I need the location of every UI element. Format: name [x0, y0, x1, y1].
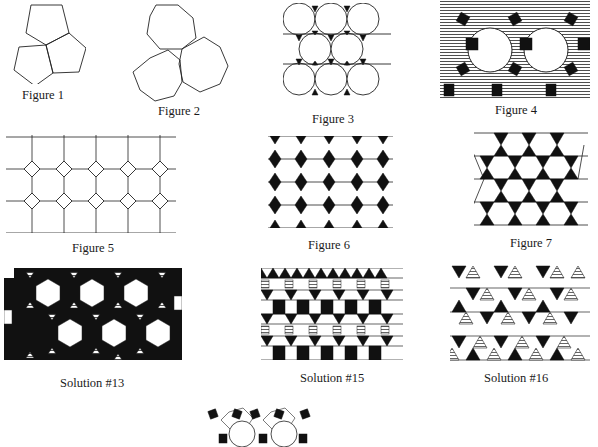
figure-4-caption: Figure 4 [495, 103, 537, 118]
solution-16-tiling [450, 264, 590, 362]
figure-3-caption: Figure 3 [312, 112, 354, 127]
figure-3-dodecagon-tiling [283, 3, 391, 99]
figure-5-caption: Figure 5 [72, 241, 114, 256]
figure-5-octagon-square-tiling [6, 135, 176, 233]
solution-13-tiling [4, 268, 182, 368]
solution-15-tiling [261, 268, 403, 360]
figure-4-hatched-tiling [440, 0, 590, 100]
figure-7-trihexagonal-tiling [474, 131, 588, 227]
solution-13-caption: Solution #13 [60, 376, 124, 391]
figure-6-caption: Figure 6 [308, 238, 350, 253]
figure-6-rhombus-columns [268, 136, 393, 228]
figure-2-caption: Figure 2 [158, 104, 200, 119]
figure-2-octagons [130, 2, 230, 104]
solution-17-partial-tiling [207, 404, 319, 447]
solution-16-caption: Solution #16 [484, 371, 548, 386]
figure-1-caption: Figure 1 [22, 88, 64, 103]
solution-15-caption: Solution #15 [300, 371, 364, 386]
figure-1-pentagons [6, 2, 86, 84]
figure-7-caption: Figure 7 [510, 236, 552, 251]
